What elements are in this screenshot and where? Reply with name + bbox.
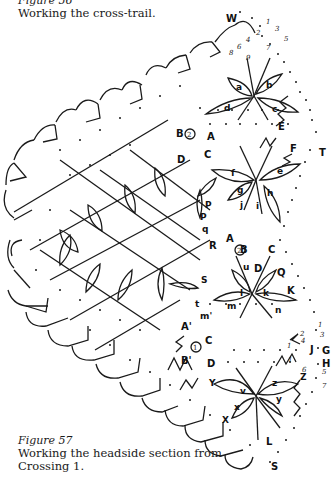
flower-top — [206, 58, 298, 120]
svg-text:1: 1 — [288, 356, 292, 364]
svg-text:1: 1 — [318, 321, 322, 329]
svg-text:y: y — [276, 394, 282, 404]
svg-text:t: t — [195, 299, 200, 309]
svg-text:a: a — [236, 82, 242, 92]
svg-text:h: h — [267, 188, 273, 198]
label-X: X — [222, 415, 229, 425]
pin-labels: W A B C D E F T P P R S Q K L G H J Z X … — [176, 13, 330, 472]
svg-text:6: 6 — [302, 366, 307, 374]
label-A-middle: A — [226, 233, 234, 244]
label-G: G — [322, 345, 330, 356]
label-R: R — [209, 240, 217, 251]
svg-text:f: f — [231, 168, 235, 178]
label-B: B — [176, 128, 184, 139]
label-J: J — [309, 344, 314, 355]
label-B-prime: B' — [181, 355, 192, 366]
upper-scallop-edge — [4, 21, 255, 288]
svg-text:k: k — [263, 288, 270, 298]
label-B-middle: B — [240, 244, 248, 255]
svg-text:n: n — [275, 305, 281, 315]
label-E: E — [278, 121, 285, 132]
label-W: W — [226, 13, 237, 24]
svg-text:5: 5 — [284, 35, 289, 43]
svg-text:6: 6 — [237, 43, 242, 51]
svg-text:b: b — [266, 80, 273, 90]
svg-text:7: 7 — [266, 44, 271, 52]
svg-text:1: 1 — [266, 18, 270, 26]
label-C-middle: C — [268, 244, 275, 255]
svg-text:j: j — [239, 200, 243, 210]
label-A: A — [207, 131, 215, 142]
svg-text:i: i — [256, 201, 259, 211]
label-S-bottom: S — [271, 461, 278, 472]
svg-text:u: u — [243, 262, 249, 272]
svg-text:5: 5 — [322, 368, 327, 376]
label-P: P — [205, 200, 212, 210]
svg-text:e: e — [277, 166, 283, 176]
label-T: T — [319, 147, 326, 158]
svg-text:8: 8 — [229, 49, 234, 57]
svg-text:z: z — [272, 378, 277, 388]
svg-text:c: c — [272, 104, 277, 114]
svg-text:7: 7 — [322, 382, 327, 390]
label-A-prime: A' — [181, 321, 192, 332]
svg-text:l: l — [240, 288, 243, 298]
svg-text:g: g — [237, 185, 243, 195]
lace-pricking-diagram: 2 2 1 W A B C D E F T P P R S Q K L G H … — [0, 0, 334, 482]
svg-text:2: 2 — [255, 29, 261, 37]
label-P2: P — [200, 212, 207, 222]
label-D: D — [177, 154, 185, 165]
label-S: S — [201, 275, 207, 285]
label-L: L — [266, 436, 273, 447]
zigzag-trails — [168, 96, 300, 416]
label-F: F — [290, 143, 297, 154]
svg-text:2: 2 — [187, 131, 191, 139]
pin-numbers: 1 2 3 4 5 6 7 8 9 1 2 3 4 5 7 6 1 1 — [229, 18, 327, 390]
label-C-lower: C — [205, 335, 212, 346]
svg-text:d: d — [224, 103, 230, 113]
svg-text:q: q — [202, 224, 208, 234]
label-K: K — [287, 285, 296, 296]
label-D-middle: D — [254, 263, 262, 274]
label-Q: Q — [277, 267, 286, 278]
svg-text:1: 1 — [287, 342, 291, 350]
svg-text:3: 3 — [275, 25, 280, 33]
label-Y: Y — [208, 378, 216, 388]
figure-57-caption: Figure 57 Working the headside section f… — [18, 434, 222, 473]
svg-text:9: 9 — [246, 54, 251, 62]
svg-text:m: m — [227, 301, 236, 311]
flower-bottom — [214, 366, 298, 440]
label-C: C — [204, 149, 211, 160]
label-D-lower: D — [207, 358, 215, 369]
svg-text:x: x — [234, 402, 240, 412]
svg-text:v: v — [240, 386, 246, 396]
label-m-prime: m' — [200, 311, 212, 321]
svg-text:4: 4 — [245, 36, 250, 44]
svg-text:1: 1 — [193, 344, 197, 352]
figure-57-text-line2: Crossing 1. — [18, 460, 222, 473]
svg-text:4: 4 — [300, 337, 305, 345]
svg-text:3: 3 — [320, 331, 325, 339]
